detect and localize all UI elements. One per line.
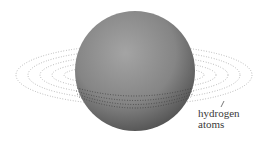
hydrogen-atoms-label: hydrogen atoms [198,108,240,130]
label-line-2: atoms [198,119,240,130]
planet-sphere [75,11,195,131]
diagram: hydrogen atoms [0,0,267,147]
